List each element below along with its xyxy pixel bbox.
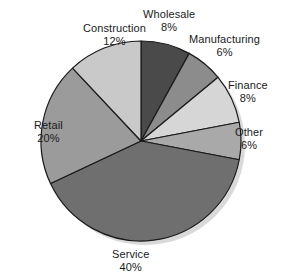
slice-label-service: Service 40% xyxy=(112,248,149,273)
slice-label-service-value: 40% xyxy=(112,261,149,274)
slice-label-construction: Construction 12% xyxy=(83,22,146,47)
slice-label-retail-name: Retail xyxy=(34,119,63,132)
slice-label-other-name: Other xyxy=(235,126,263,139)
slice-label-retail: Retail 20% xyxy=(34,119,63,144)
slice-label-manufacturing-name: Manufacturing xyxy=(189,33,260,46)
slice-label-finance: Finance 8% xyxy=(228,79,268,104)
pie-chart: Wholesale 8% Manufacturing 6% Finance 8%… xyxy=(0,0,283,276)
slice-label-other: Other 6% xyxy=(235,126,263,151)
slice-label-wholesale-value: 8% xyxy=(143,21,195,34)
slice-label-wholesale: Wholesale 8% xyxy=(143,8,195,33)
slice-label-other-value: 6% xyxy=(235,139,263,152)
slice-label-construction-value: 12% xyxy=(83,35,146,48)
slice-label-finance-name: Finance xyxy=(228,79,268,92)
slice-label-wholesale-name: Wholesale xyxy=(143,8,195,21)
slice-label-finance-value: 8% xyxy=(228,92,268,105)
slice-label-manufacturing-value: 6% xyxy=(189,46,260,59)
slice-label-construction-name: Construction xyxy=(83,22,146,35)
slice-label-manufacturing: Manufacturing 6% xyxy=(189,33,260,58)
pie-slices-group xyxy=(41,41,241,241)
slice-label-service-name: Service xyxy=(112,248,149,261)
slice-label-retail-value: 20% xyxy=(34,132,63,145)
